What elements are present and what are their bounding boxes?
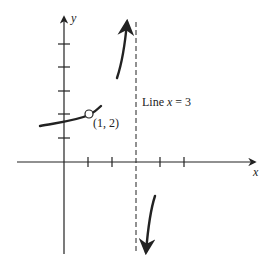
y-axis-label: y xyxy=(70,11,77,25)
asymptote-line: Line x = 3 xyxy=(136,22,191,254)
open-point: (1, 2) xyxy=(85,110,119,130)
x-axis: x xyxy=(17,157,259,179)
function-graph: x y Line x = 3 (1, 2) xyxy=(0,0,271,273)
asymptote-label: Line x = 3 xyxy=(142,95,191,109)
point-label: (1, 2) xyxy=(93,116,119,130)
lower-branch-curve xyxy=(146,196,155,252)
y-axis: y xyxy=(58,11,77,254)
x-axis-label: x xyxy=(252,165,259,179)
upper-branch-curve xyxy=(117,22,127,78)
